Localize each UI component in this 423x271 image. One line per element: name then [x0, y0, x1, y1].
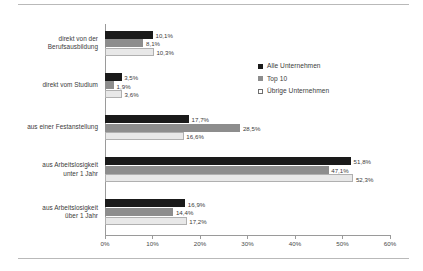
- x-tick-mark: [200, 235, 201, 239]
- legend-label: Top 10: [267, 73, 287, 86]
- bar-0: [105, 157, 351, 165]
- bar-2: [105, 90, 122, 98]
- x-tick-mark: [342, 235, 343, 239]
- chart-figure: 0%10%20%30%40%50%60% direkt von der Beru…: [0, 0, 423, 271]
- bar-value-label: 16,6%: [186, 133, 204, 140]
- bar-value-label: 3,6%: [125, 91, 139, 98]
- x-tick-label: 20%: [194, 240, 207, 247]
- bar-value-label: 10,1%: [155, 32, 173, 39]
- bar-0: [105, 31, 153, 39]
- x-tick-label: 10%: [146, 240, 159, 247]
- x-tick-mark: [105, 235, 106, 239]
- bar-value-label: 17,7%: [192, 116, 210, 123]
- bar-value-label: 28,5%: [243, 125, 261, 132]
- x-tick-mark: [390, 235, 391, 239]
- category-label: aus Arbeitslosigkeit unter 1 Jahr: [42, 161, 98, 178]
- category-label: aus Arbeitslosigkeit über 1 Jahr: [42, 204, 98, 221]
- x-tick-label: 30%: [241, 240, 254, 247]
- category-label: direkt vom Studium: [42, 81, 98, 89]
- category-label: direkt von der Berufsausbildung: [48, 35, 98, 52]
- bar-value-label: 51,8%: [354, 158, 372, 165]
- legend-label: Übrige Unternehmen: [267, 85, 329, 98]
- x-tick-label: 0%: [100, 240, 109, 247]
- legend-swatch-icon: [258, 89, 263, 94]
- legend-item[interactable]: Übrige Unternehmen: [258, 85, 329, 98]
- legend-swatch-icon: [258, 64, 263, 69]
- x-tick-mark: [247, 235, 248, 239]
- bar-value-label: 1,9%: [117, 83, 131, 90]
- bar-1: [105, 81, 114, 89]
- x-tick-mark: [152, 235, 153, 239]
- chart-legend: Alle UnternehmenTop 10Übrige Unternehmen: [258, 60, 329, 98]
- bar-0: [105, 115, 189, 123]
- bar-value-label: 16,9%: [188, 201, 206, 208]
- legend-item[interactable]: Alle Unternehmen: [258, 60, 329, 73]
- category-label: aus einer Festanstellung: [27, 123, 98, 131]
- bar-value-label: 8,1%: [146, 40, 160, 47]
- bar-2: [105, 217, 187, 225]
- bar-value-label: 3,5%: [124, 74, 138, 81]
- bar-value-label: 52,3%: [356, 176, 374, 183]
- bar-value-label: 10,3%: [156, 49, 174, 56]
- legend-swatch-icon: [258, 76, 263, 81]
- x-tick-label: 40%: [289, 240, 302, 247]
- legend-item[interactable]: Top 10: [258, 73, 329, 86]
- x-tick-label: 60%: [384, 240, 397, 247]
- bar-value-label: 14,4%: [176, 209, 194, 216]
- bar-1: [105, 124, 240, 132]
- bar-0: [105, 199, 185, 207]
- x-tick-mark: [295, 235, 296, 239]
- bar-value-label: 17,2%: [189, 218, 207, 225]
- bar-2: [105, 132, 184, 140]
- bar-0: [105, 73, 122, 81]
- bar-1: [105, 166, 329, 174]
- bar-2: [105, 174, 353, 182]
- x-tick-label: 50%: [336, 240, 349, 247]
- bar-1: [105, 39, 143, 47]
- legend-label: Alle Unternehmen: [267, 60, 321, 73]
- bar-1: [105, 208, 173, 216]
- bar-value-label: 47,1%: [331, 167, 349, 174]
- bar-2: [105, 48, 154, 56]
- plot-area: 0%10%20%30%40%50%60% direkt von der Beru…: [0, 0, 423, 271]
